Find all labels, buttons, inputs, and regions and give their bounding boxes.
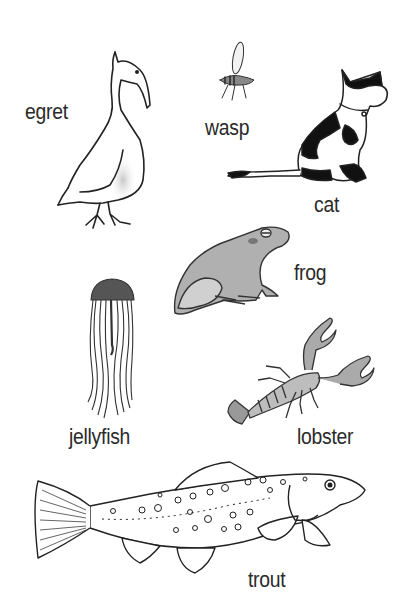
label-frog: frog bbox=[294, 262, 326, 284]
label-egret: egret bbox=[25, 101, 68, 123]
label-lobster: lobster bbox=[297, 426, 353, 448]
illustrations bbox=[0, 0, 413, 613]
cat-drawing bbox=[228, 70, 387, 182]
label-jellyfish: jellyfish bbox=[69, 426, 130, 448]
label-cat: cat bbox=[314, 194, 339, 216]
animal-illustration: egret wasp cat frog jellyfish lobster tr… bbox=[0, 0, 413, 613]
lobster-drawing bbox=[228, 318, 374, 424]
jellyfish-drawing bbox=[88, 279, 134, 418]
frog-drawing bbox=[175, 227, 290, 314]
egret-drawing bbox=[58, 52, 150, 228]
trout-drawing bbox=[35, 462, 365, 573]
label-trout: trout bbox=[248, 569, 285, 591]
label-wasp: wasp bbox=[205, 117, 249, 139]
wasp-drawing bbox=[220, 41, 254, 100]
